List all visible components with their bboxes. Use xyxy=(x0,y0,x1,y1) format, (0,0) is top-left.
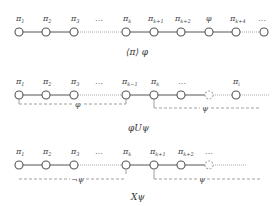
node-label: πk+4 xyxy=(229,14,246,24)
node-label: πk xyxy=(122,14,131,24)
state-node xyxy=(150,91,158,99)
state-node xyxy=(122,161,130,169)
node-label: π3 xyxy=(70,77,79,87)
state-node xyxy=(177,28,185,36)
ellipsis-label: … xyxy=(95,77,103,86)
node-label: πk+2 xyxy=(177,147,194,157)
span-label-psi: ψ xyxy=(199,175,206,184)
temporal-logic-diagram: π1 π2 π3 … πk πk+1 πk+2 φ πk+4 … ⟨π⟩ φ π… xyxy=(0,0,280,206)
state-node xyxy=(150,28,158,36)
state-node xyxy=(42,161,50,169)
node-label: π3 xyxy=(70,14,79,24)
ellipsis-label: … xyxy=(178,77,186,86)
state-node xyxy=(15,28,23,36)
state-node xyxy=(70,161,78,169)
state-node xyxy=(150,161,158,169)
span-label-psi: ψ xyxy=(202,104,209,113)
node-label-phi: φ xyxy=(206,14,212,23)
span-label-phi: φ xyxy=(75,100,81,109)
ellipsis-label: … xyxy=(258,14,266,23)
ellipsis-label: … xyxy=(95,14,103,23)
span-label-not-psi: ¬ψ xyxy=(71,175,85,184)
state-node-dashed xyxy=(205,91,213,99)
state-node-dashed xyxy=(205,161,213,169)
state-node xyxy=(122,91,130,99)
caption-until: φUψ xyxy=(128,123,150,133)
state-node xyxy=(70,91,78,99)
state-node xyxy=(205,28,213,36)
state-node xyxy=(177,161,185,169)
state-node xyxy=(177,91,185,99)
node-label: π1 xyxy=(15,77,24,87)
node-label: πi xyxy=(232,77,240,87)
caption-next-x: Xψ xyxy=(130,192,145,202)
node-label: πk+1 xyxy=(149,147,166,157)
node-label: π2 xyxy=(42,147,51,157)
node-label: π1 xyxy=(15,147,24,157)
node-label: πk+1 xyxy=(147,14,164,24)
node-label: π1 xyxy=(15,14,24,24)
node-label: πk−1 xyxy=(121,77,138,87)
node-label: πk xyxy=(150,77,159,87)
state-node xyxy=(232,28,240,36)
state-node xyxy=(122,28,130,36)
state-node xyxy=(260,28,268,36)
diagram-until: π1 π2 π3 … πk−1 πk … πi φ ψ φU xyxy=(15,77,270,133)
node-label: π2 xyxy=(42,14,51,24)
diagram-next-path: π1 π2 π3 … πk πk+1 πk+2 φ πk+4 … ⟨π⟩ φ xyxy=(15,14,268,57)
node-label: π3 xyxy=(70,147,79,157)
node-label: πk+2 xyxy=(174,14,191,24)
state-node xyxy=(42,91,50,99)
caption-next: ⟨π⟩ φ xyxy=(126,47,149,57)
node-label: π2 xyxy=(42,77,51,87)
ellipsis-label: … xyxy=(95,147,103,156)
diagram-next: π1 π2 π3 … πk πk+1 πk+2 … ¬ψ ψ Xψ xyxy=(15,147,260,202)
state-node xyxy=(232,91,240,99)
state-node xyxy=(15,161,23,169)
state-node xyxy=(70,28,78,36)
node-label: πk xyxy=(122,147,131,157)
state-node xyxy=(42,28,50,36)
state-node xyxy=(15,91,23,99)
ellipsis-label: … xyxy=(205,147,213,156)
